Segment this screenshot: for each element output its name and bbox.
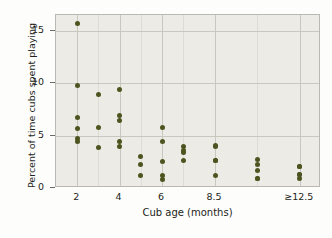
- data-point: [96, 125, 101, 130]
- gridline-horizontal: [56, 31, 319, 32]
- data-point: [75, 126, 80, 131]
- x-tick-label: 8.5: [184, 192, 244, 202]
- data-point: [75, 21, 80, 26]
- y-tick-label: 10: [22, 77, 44, 87]
- data-point: [255, 176, 260, 181]
- data-point: [213, 173, 218, 178]
- gridline-horizontal: [56, 83, 319, 84]
- gridline-vertical-minor: [98, 15, 99, 186]
- y-tick-label: 0: [22, 182, 44, 192]
- data-point: [138, 154, 143, 159]
- y-tick-mark: [50, 187, 55, 188]
- data-point: [138, 162, 143, 167]
- y-tick-label: 15: [22, 25, 44, 35]
- gridline-vertical: [300, 15, 301, 186]
- gridline-vertical-minor: [141, 15, 142, 186]
- data-point: [117, 144, 122, 149]
- data-point: [255, 162, 260, 167]
- data-point: [75, 139, 80, 144]
- data-point: [75, 83, 80, 88]
- gridline-horizontal: [56, 136, 319, 137]
- data-point: [160, 139, 165, 144]
- data-point: [160, 159, 165, 164]
- data-point: [96, 92, 101, 97]
- data-point: [213, 144, 218, 149]
- plot-area: [55, 14, 320, 187]
- data-point: [117, 87, 122, 92]
- data-point: [297, 176, 302, 181]
- data-point: [297, 164, 302, 169]
- x-tick-label: ≥12.5: [269, 192, 329, 202]
- data-point: [160, 177, 165, 182]
- data-point: [213, 158, 218, 163]
- data-point: [255, 168, 260, 173]
- data-point: [160, 125, 165, 130]
- gridline-vertical: [120, 15, 121, 186]
- x-axis-title: Cub age (months): [55, 207, 320, 218]
- x-tick-label: 6: [131, 192, 191, 202]
- y-axis-title: Percent of time cubs spent playing: [26, 21, 37, 191]
- scatter-plot-figure: Percent of time cubs spent playing 05101…: [0, 0, 332, 238]
- gridline-vertical: [77, 15, 78, 186]
- data-point: [181, 158, 186, 163]
- data-point: [181, 150, 186, 155]
- data-point: [75, 115, 80, 120]
- data-point: [117, 118, 122, 123]
- data-point: [138, 173, 143, 178]
- y-tick-label: 5: [22, 130, 44, 140]
- data-point: [96, 145, 101, 150]
